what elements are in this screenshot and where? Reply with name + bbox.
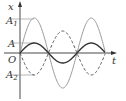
a1-label: A1 xyxy=(5,15,18,28)
x-axis-label: x xyxy=(8,1,14,12)
a2-label: A2 xyxy=(5,69,18,82)
a-label: A xyxy=(7,38,15,49)
t-axis-label: t xyxy=(112,55,117,66)
vertical-axis-arrow-icon xyxy=(18,1,22,7)
origin-label: O xyxy=(8,54,16,65)
wave-diagram: x t O A1 A A2 xyxy=(0,0,126,101)
